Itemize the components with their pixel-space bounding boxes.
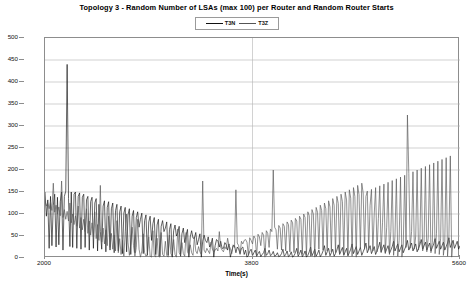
legend-label-t3n: T3N — [225, 21, 236, 27]
y-axis-ticks: 050100150200250300350400450500 — [0, 0, 44, 262]
y-tick-mark — [19, 191, 24, 192]
y-tick-mark — [19, 81, 24, 82]
x-tick-label: 3800 — [245, 260, 259, 266]
y-tick-mark — [19, 147, 24, 148]
y-tick-mark — [19, 125, 24, 126]
x-tick-mark — [44, 255, 45, 259]
y-tick-mark — [19, 103, 24, 104]
x-tick-label: 5600 — [452, 260, 466, 266]
grid-lines — [45, 38, 460, 258]
y-tick-label: 300 — [0, 122, 18, 128]
y-tick-label: 100 — [0, 210, 18, 216]
chart-root: Topology 3 - Random Number of LSAs (max … — [0, 0, 473, 293]
y-tick-label: 400 — [0, 78, 18, 84]
plot-svg — [45, 38, 460, 258]
y-tick-label: 350 — [0, 100, 18, 106]
y-tick-mark — [19, 169, 24, 170]
legend-entry-t3n: T3N — [206, 21, 236, 27]
y-tick-label: 500 — [0, 34, 18, 40]
y-tick-label: 250 — [0, 144, 18, 150]
chart-title: Topology 3 - Random Number of LSAs (max … — [0, 3, 473, 12]
y-tick-label: 450 — [0, 56, 18, 62]
x-axis-label: Time(s) — [0, 270, 473, 277]
y-tick-mark — [19, 213, 24, 214]
legend-swatch-t3n — [206, 23, 223, 24]
x-tick-mark — [459, 255, 460, 259]
y-tick-label: 150 — [0, 188, 18, 194]
y-tick-label: 50 — [0, 232, 18, 238]
y-tick-mark — [19, 37, 24, 38]
plot-area — [44, 37, 459, 257]
y-tick-label: 200 — [0, 166, 18, 172]
x-tick-mark — [252, 255, 253, 259]
x-tick-label: 2000 — [37, 260, 51, 266]
chart-legend: T3N T3Z — [195, 17, 279, 30]
y-tick-mark — [19, 235, 24, 236]
y-tick-mark — [19, 59, 24, 60]
legend-entry-t3z: T3Z — [239, 21, 268, 27]
legend-label-t3z: T3Z — [258, 21, 268, 27]
legend-swatch-t3z — [239, 23, 256, 24]
